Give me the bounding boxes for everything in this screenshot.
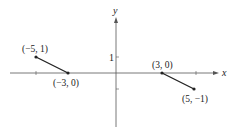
point-neg5-1: [34, 55, 37, 58]
segment-right: [162, 73, 194, 89]
y-tick-label: 1: [109, 52, 114, 63]
segment-left: [36, 57, 68, 73]
y-axis-label: y: [112, 5, 118, 16]
point-5-neg1: [192, 87, 195, 90]
label-neg5-1: (−5, 1): [22, 44, 48, 55]
point-3-0: [160, 71, 163, 74]
label-neg3-0: (−3, 0): [53, 78, 79, 89]
y-axis-arrow-icon: [114, 17, 118, 23]
x-axis-arrow-icon: [213, 71, 219, 75]
x-axis-label: x: [221, 67, 227, 78]
graph-canvas: x y 1 (−5, 1) (−3, 0) (3, 0) (5, −1): [0, 0, 235, 132]
point-neg3-0: [66, 71, 69, 74]
piecewise-graph: x y 1 (−5, 1) (−3, 0) (3, 0) (5, −1): [0, 0, 235, 132]
label-3-0: (3, 0): [152, 60, 173, 71]
label-5-neg1: (5, −1): [182, 94, 208, 105]
